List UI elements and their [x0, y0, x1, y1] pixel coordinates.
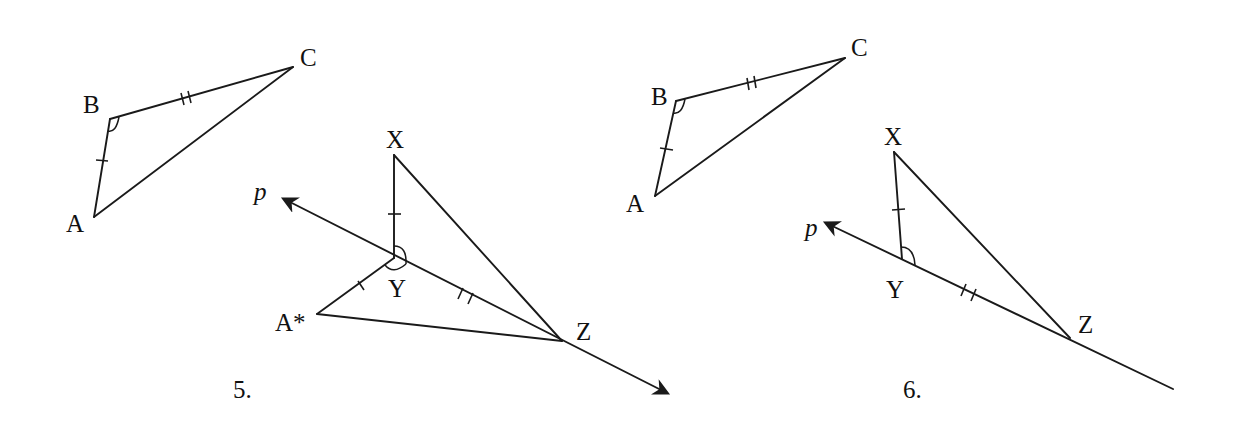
segment-ac: [655, 58, 845, 196]
figure-6: B A C p X Y Z 6.: [626, 34, 1173, 403]
label-z: Z: [1078, 311, 1093, 338]
single-tick-mark: [660, 148, 673, 150]
segment-xz: [894, 152, 1070, 338]
label-y: Y: [886, 276, 904, 303]
figure-number: 6.: [903, 376, 922, 403]
line-p-fig6: [826, 223, 1173, 389]
label-a: A: [66, 210, 84, 237]
label-y: Y: [388, 275, 406, 302]
segment-bc: [110, 67, 293, 119]
triangle-xyz-fig5: X Y Z A*: [275, 126, 591, 345]
single-tick-mark: [96, 160, 108, 161]
segment-ab: [94, 119, 110, 217]
single-tick-mark: [892, 209, 905, 210]
label-c: C: [300, 44, 317, 71]
label-x: X: [884, 123, 902, 150]
figure-number: 5.: [233, 376, 252, 403]
label-z: Z: [576, 318, 591, 345]
label-p: p: [252, 178, 267, 205]
double-tick-mark: [468, 293, 473, 304]
triangle-abc-fig5: B A C: [66, 44, 317, 237]
double-tick-mark: [747, 78, 749, 90]
label-b: B: [651, 83, 668, 110]
double-tick-mark: [754, 76, 756, 88]
triangle-xyz-fig6: X Y Z: [884, 123, 1093, 338]
geometry-diagram: B A C p X Y Z A* 5.: [0, 0, 1234, 429]
angle-arc-y-lower: [385, 264, 406, 270]
segment-xz: [394, 155, 562, 341]
segment-astar-z: [317, 314, 562, 341]
segment-bc: [676, 58, 845, 101]
label-x: X: [386, 126, 404, 153]
label-c: C: [851, 34, 868, 61]
segment-y-astar: [317, 258, 394, 314]
label-a-star: A*: [275, 309, 306, 336]
label-a: A: [626, 190, 644, 217]
segment-xy: [894, 152, 902, 259]
label-b: B: [83, 91, 100, 118]
label-p: p: [803, 214, 818, 241]
double-tick-mark: [458, 288, 463, 299]
triangle-abc-fig6: B A C: [626, 34, 868, 217]
figure-5: B A C p X Y Z A* 5.: [66, 44, 667, 403]
